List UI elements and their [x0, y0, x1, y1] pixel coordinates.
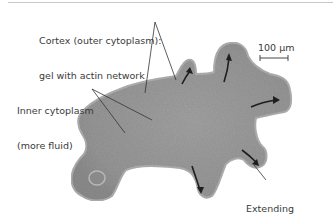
label-inner-line1: Inner cytoplasm [17, 105, 94, 117]
scale-bar-label: 100 µm [258, 42, 294, 54]
label-inner-line2: (more fluid) [17, 140, 94, 152]
label-cortex: Cortex (outer cytoplasm): gel with actin… [39, 12, 161, 93]
label-cortex-line2: gel with actin network [39, 70, 161, 82]
label-inner-cytoplasm: Inner cytoplasm (more fluid) [17, 82, 94, 163]
label-pseudopodium-line1: Extending [246, 203, 316, 215]
label-pseudopodium: Extending pseudopodium [246, 180, 316, 215]
label-cortex-line1: Cortex (outer cytoplasm): [39, 35, 161, 47]
scale-bar [260, 55, 288, 61]
contractile-vacuole [89, 171, 105, 185]
